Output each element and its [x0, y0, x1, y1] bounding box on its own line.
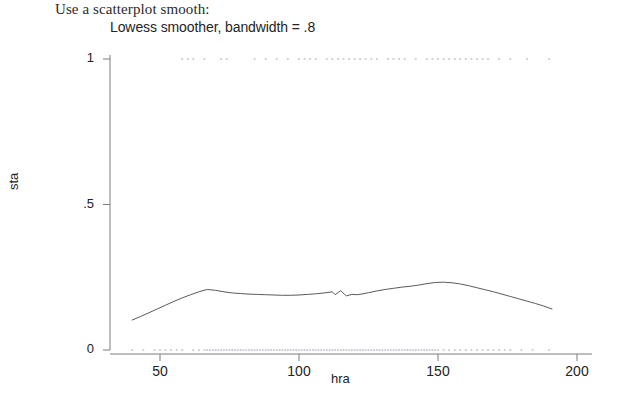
scatter-point	[159, 349, 161, 351]
scatter-point	[504, 349, 506, 351]
scatter-point	[315, 349, 317, 351]
scatter-point	[279, 349, 281, 351]
scatter-point	[293, 349, 295, 351]
scatter-point	[259, 349, 261, 351]
x-tick-label: 100	[274, 363, 324, 379]
scatter-point	[290, 349, 292, 351]
scatter-point	[470, 58, 472, 60]
y-tick-label: 0	[64, 341, 94, 356]
scatter-point	[309, 58, 311, 60]
scatter-point	[209, 349, 211, 351]
scatter-point	[240, 349, 242, 351]
scatter-point	[509, 349, 511, 351]
scatter-point	[418, 349, 420, 351]
scatter-point	[187, 58, 189, 60]
scatter-point	[429, 349, 431, 351]
scatter-point	[270, 349, 272, 351]
scatter-point	[306, 349, 308, 351]
scatter-point	[404, 58, 406, 60]
scatter-point	[434, 349, 436, 351]
scatter-point	[234, 349, 236, 351]
scatter-point	[131, 349, 133, 351]
scatter-point	[265, 349, 267, 351]
scatter-point	[370, 58, 372, 60]
scatter-point	[426, 58, 428, 60]
x-tick-label: 150	[413, 363, 463, 379]
scatter-point	[390, 349, 392, 351]
scatter-point	[415, 349, 417, 351]
scatter-point	[298, 349, 300, 351]
scatter-points-group	[131, 58, 550, 351]
scatter-point	[354, 349, 356, 351]
scatter-point	[443, 349, 445, 351]
scatter-point	[404, 349, 406, 351]
scatter-point	[229, 349, 231, 351]
scatter-point	[476, 349, 478, 351]
scatter-point	[465, 349, 467, 351]
scatter-point	[254, 58, 256, 60]
scatter-point	[448, 58, 450, 60]
scatter-point	[154, 349, 156, 351]
scatter-point	[382, 349, 384, 351]
scatter-point	[532, 349, 534, 351]
scatter-point	[373, 349, 375, 351]
scatter-point	[398, 349, 400, 351]
y-tick-label: 1	[64, 50, 94, 65]
plot-area: 0.51 50100150200 sta hra	[0, 0, 618, 396]
scatter-point	[407, 349, 409, 351]
scatter-point	[181, 58, 183, 60]
scatter-point	[170, 349, 172, 351]
scatter-point	[298, 58, 300, 60]
scatter-point	[276, 58, 278, 60]
scatter-point	[223, 349, 225, 351]
scatter-point	[395, 349, 397, 351]
scatter-point	[256, 349, 258, 351]
scatter-point	[365, 58, 367, 60]
scatter-point	[487, 349, 489, 351]
scatter-point	[251, 349, 253, 351]
scatter-point	[192, 58, 194, 60]
scatter-point	[220, 58, 222, 60]
scatter-point	[284, 349, 286, 351]
x-tick-label: 200	[552, 363, 602, 379]
scatter-point	[370, 349, 372, 351]
scatter-point	[354, 58, 356, 60]
scatter-point	[301, 349, 303, 351]
scatter-point	[287, 58, 289, 60]
scatter-point	[192, 349, 194, 351]
scatter-point	[204, 349, 206, 351]
scatter-point	[326, 58, 328, 60]
scatter-point	[498, 349, 500, 351]
scatter-point	[231, 349, 233, 351]
scatter-point	[437, 58, 439, 60]
scatter-point	[493, 349, 495, 351]
scatter-point	[423, 349, 425, 351]
scatter-point	[351, 349, 353, 351]
scatter-point	[476, 58, 478, 60]
scatter-point	[376, 58, 378, 60]
scatter-point	[420, 349, 422, 351]
scatter-point	[368, 349, 370, 351]
scatter-point	[362, 349, 364, 351]
scatter-point	[432, 58, 434, 60]
scatter-point	[454, 58, 456, 60]
scatter-point	[365, 349, 367, 351]
scatter-point	[426, 349, 428, 351]
scatter-point	[287, 349, 289, 351]
scatter-point	[176, 349, 178, 351]
scatter-point	[482, 349, 484, 351]
scatter-point	[320, 349, 322, 351]
scatter-point	[226, 349, 228, 351]
scatter-point	[398, 58, 400, 60]
scatter-point	[331, 58, 333, 60]
scatter-point	[318, 349, 320, 351]
scatter-point	[415, 58, 417, 60]
scatter-point	[281, 349, 283, 351]
scatter-point	[220, 349, 222, 351]
scatter-point	[459, 349, 461, 351]
scatter-point	[226, 58, 228, 60]
axes-group	[103, 55, 592, 361]
y-axis-label: sta	[7, 176, 47, 190]
scatter-point	[379, 349, 381, 351]
scatter-point	[248, 349, 250, 351]
